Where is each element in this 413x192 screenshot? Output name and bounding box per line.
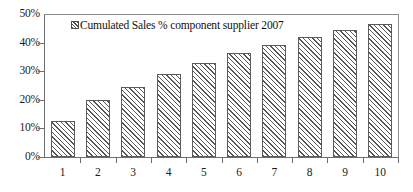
bar-series <box>45 14 398 157</box>
x-tick-label: 9 <box>327 166 362 179</box>
x-tick-mark <box>116 158 117 163</box>
legend-label: Cumulated Sales % component supplier 200… <box>80 19 284 31</box>
bar <box>298 37 322 157</box>
x-tick-label: 10 <box>363 166 398 179</box>
x-tick-label: 2 <box>80 166 115 179</box>
x-tick-mark <box>257 158 258 163</box>
y-tick-label: 20% <box>0 94 40 106</box>
bar <box>121 87 145 157</box>
bar <box>368 24 392 157</box>
y-tick-label: 30% <box>0 65 40 77</box>
x-tick-label: 1 <box>45 166 80 179</box>
x-tick-label: 6 <box>222 166 257 179</box>
bar-chart: 0%10%20%30%40%50% 12345678910 Cumulated … <box>0 0 413 192</box>
y-tick-label: 40% <box>0 37 40 49</box>
y-axis: 0%10%20%30%40%50% <box>0 0 40 192</box>
y-tick-mark <box>38 128 44 129</box>
chart-legend: Cumulated Sales % component supplier 200… <box>71 19 284 31</box>
x-tick-label: 4 <box>151 166 186 179</box>
x-tick-mark <box>151 158 152 163</box>
x-axis: 12345678910 <box>45 166 398 184</box>
legend-swatch-icon <box>71 21 79 29</box>
bar <box>157 74 181 158</box>
y-tick-label: 10% <box>0 122 40 134</box>
x-axis-ticks <box>45 158 398 164</box>
bar <box>262 45 286 157</box>
x-tick-mark <box>292 158 293 163</box>
x-tick-label: 3 <box>116 166 151 179</box>
x-tick-mark <box>80 158 81 163</box>
y-tick-mark <box>38 157 44 158</box>
bar <box>86 100 110 157</box>
x-tick-mark <box>363 158 364 163</box>
y-tick-mark <box>38 43 44 44</box>
bar <box>192 63 216 157</box>
y-tick-label: 0% <box>0 151 40 163</box>
x-tick-label: 7 <box>257 166 292 179</box>
x-tick-label: 5 <box>186 166 221 179</box>
y-axis-ticks <box>38 14 45 158</box>
bar <box>227 53 251 157</box>
y-tick-mark <box>38 71 44 72</box>
bar <box>333 30 357 157</box>
bar <box>51 121 75 157</box>
x-tick-label: 8 <box>292 166 327 179</box>
x-tick-mark <box>186 158 187 163</box>
x-tick-mark <box>398 158 399 163</box>
x-tick-mark <box>327 158 328 163</box>
y-tick-mark <box>38 100 44 101</box>
y-tick-label: 50% <box>0 8 40 20</box>
x-tick-mark <box>222 158 223 163</box>
